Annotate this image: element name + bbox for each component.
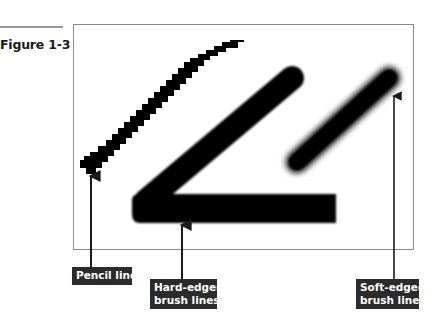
callout-soft-line1: Soft-edged xyxy=(360,281,415,294)
callout-pencil-text: Pencil line xyxy=(76,269,137,281)
callout-hard-line2: brush lines xyxy=(154,294,213,307)
brush-illustration xyxy=(0,0,441,321)
callout-pencil-line: Pencil line xyxy=(72,267,132,285)
callout-soft-edged-brush: Soft-edged brush line xyxy=(356,279,419,309)
callout-hard-line1: Hard-edged xyxy=(154,281,213,294)
callout-soft-line2: brush line xyxy=(360,294,415,307)
soft-edged-brush-stroke xyxy=(297,78,389,162)
callout-hard-edged-brush: Hard-edged brush lines xyxy=(150,279,217,309)
